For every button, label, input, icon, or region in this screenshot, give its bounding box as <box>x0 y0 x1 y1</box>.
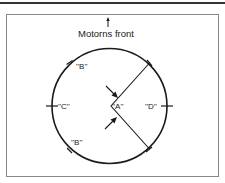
label-a: ''A'' <box>112 102 124 111</box>
label-d: ''D'' <box>145 102 157 111</box>
front-arrow-icon <box>106 17 109 21</box>
label-c: ''C'' <box>58 102 70 111</box>
diagram-canvas: Motorns front ''A'' ''B'' ''B'' ''C'' ''… <box>0 0 225 183</box>
label-b-top: ''B'' <box>76 62 88 71</box>
front-label: Motorns front <box>78 28 134 39</box>
label-b-bottom: ''B'' <box>71 138 83 147</box>
